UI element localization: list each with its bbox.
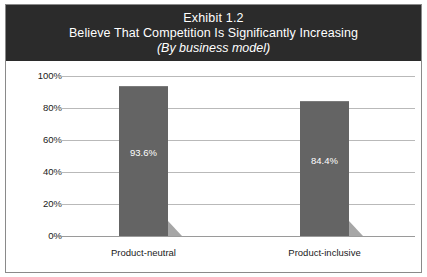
bar[interactable] [300, 101, 349, 236]
exhibit-number: Exhibit 1.2 [183, 11, 244, 26]
bar-shadow [168, 221, 182, 236]
bar-value-label: 84.4% [300, 155, 349, 166]
bar-column: 93.6% [119, 86, 168, 236]
category-label: Product-neutral [111, 247, 176, 259]
exhibit-subtitle: (By business model) [157, 41, 270, 56]
exhibit-title: Believe That Competition Is Significantl… [69, 26, 358, 41]
x-axis-category-labels: Product-neutralProduct-inclusive [53, 241, 415, 263]
plot-area: 100%80%60%40%20%0% 93.6%84.4% Product-ne… [6, 61, 421, 272]
bar-value-label: 93.6% [119, 147, 168, 158]
category-label: Product-inclusive [288, 247, 360, 259]
chart-title-band: Exhibit 1.2 Believe That Competition Is … [6, 5, 421, 61]
bar-column: 84.4% [300, 101, 349, 236]
exhibit-chart-figure: Exhibit 1.2 Believe That Competition Is … [0, 0, 427, 277]
bar-shadow [349, 221, 363, 236]
bar[interactable] [119, 86, 168, 236]
